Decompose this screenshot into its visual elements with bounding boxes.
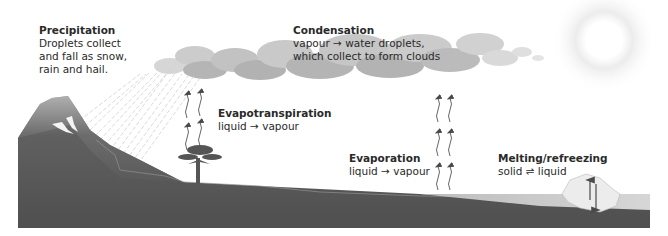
evapotranspiration-title: Evapotranspiration xyxy=(218,107,332,120)
precipitation-title: Precipitation xyxy=(39,24,127,37)
sun-icon xyxy=(552,0,656,92)
melting-line-1: solid ⇌ liquid xyxy=(498,165,608,178)
precipitation-label: Precipitation Droplets collect and fall … xyxy=(39,24,127,76)
water-cycle-diagram: Precipitation Droplets collect and fall … xyxy=(0,0,668,236)
precipitation-line-1: Droplets collect xyxy=(39,37,127,50)
evapotranspiration-label: Evapotranspiration liquid → vapour xyxy=(218,107,332,133)
melting-label: Melting/refreezing solid ⇌ liquid xyxy=(498,152,608,178)
evaporation-line-1: liquid → vapour xyxy=(349,165,430,178)
condensation-title: Condensation xyxy=(293,24,440,37)
precipitation-line-2: and fall as snow, xyxy=(39,50,127,63)
condensation-line-2: which collect to form clouds xyxy=(293,50,440,63)
melting-title: Melting/refreezing xyxy=(498,152,608,165)
condensation-label: Condensation vapour → water droplets, wh… xyxy=(293,24,440,63)
condensation-line-1: vapour → water droplets, xyxy=(293,37,440,50)
evaporation-title: Evaporation xyxy=(349,152,430,165)
evapotranspiration-line-1: liquid → vapour xyxy=(218,120,332,133)
evaporation-label: Evaporation liquid → vapour xyxy=(349,152,430,178)
precipitation-line-3: rain and hail. xyxy=(39,63,127,76)
tree-icon xyxy=(178,145,222,184)
